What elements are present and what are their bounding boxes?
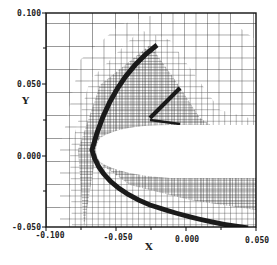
x-axis-label: X bbox=[145, 241, 153, 252]
y-tick-2: 0.000 bbox=[17, 152, 41, 161]
x-tick-2: 0.000 bbox=[175, 235, 199, 244]
y-tick-1: 0.050 bbox=[17, 80, 41, 89]
y-tick-0: 0.100 bbox=[17, 9, 41, 18]
mesh-area bbox=[46, 13, 256, 228]
x-tick-1: -0.050 bbox=[104, 233, 133, 242]
body-shape bbox=[96, 125, 256, 178]
x-tick-3: 0.050 bbox=[245, 236, 269, 245]
y-axis-label: Y bbox=[21, 95, 30, 106]
y-axis: 0.100 0.050 0.000 -0.050 Y bbox=[12, 9, 46, 232]
mesh-figure: 0.100 0.050 0.000 -0.050 Y -0.100 -0.050… bbox=[0, 0, 277, 265]
x-axis: -0.100 -0.050 0.000 0.050 X bbox=[36, 227, 270, 252]
x-tick-0: -0.100 bbox=[36, 231, 65, 240]
